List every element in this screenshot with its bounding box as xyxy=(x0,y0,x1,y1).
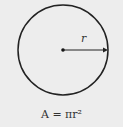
radius-label: r xyxy=(81,32,86,45)
area-formula: A = πr² xyxy=(0,108,123,121)
